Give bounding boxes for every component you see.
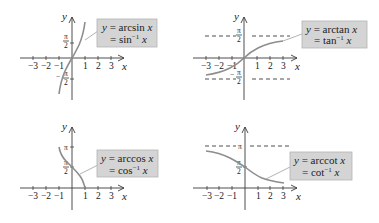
y-axis-label: y <box>61 10 67 22</box>
tick-label-m2: −2 <box>214 191 224 201</box>
panel-arccos: −3 −2 −1 1 2 3 x y π π 2 y = arccos x = … <box>20 120 158 210</box>
tick-label-2: 2 <box>96 191 101 201</box>
x-axis-label: x <box>121 60 127 72</box>
label-line-2: = tan−1 x <box>314 34 352 46</box>
tick-label-m1: −1 <box>227 191 237 201</box>
tick-label-1: 1 <box>83 191 88 201</box>
y-axis-label: y <box>234 120 240 132</box>
leader-line <box>283 34 302 41</box>
label-line-1: y = arccot x <box>293 154 345 166</box>
tick-label-m2: −2 <box>41 61 51 71</box>
tick-label-2: 2 <box>268 191 273 201</box>
svg-text:−: − <box>56 72 60 81</box>
panel-arccot: −3 −2 −1 1 2 3 x y π π 2 y = arccot x = … <box>193 120 352 210</box>
panel-arcsin: −3 −2 −1 1 2 3 x y π 2 − π 2 y = arcsin … <box>20 10 157 100</box>
x-axis-label: x <box>294 60 300 72</box>
tick-label-3: 3 <box>281 191 286 201</box>
y-label-pi: π <box>64 143 68 152</box>
svg-text:2: 2 <box>237 35 241 44</box>
tick-label-3: 3 <box>109 61 114 71</box>
svg-text:2: 2 <box>237 167 241 176</box>
label-line-2: = sin−1 x <box>110 33 147 45</box>
y-label-pi: π <box>238 142 242 151</box>
svg-text:π: π <box>237 68 241 77</box>
y-axis-label: y <box>61 120 67 132</box>
inverse-trig-figure: −3 −2 −1 1 2 3 x y π 2 − π 2 y = arcsin … <box>0 0 379 223</box>
tick-label-3: 3 <box>281 61 286 71</box>
svg-text:π: π <box>237 26 241 35</box>
leader-line <box>266 167 290 179</box>
svg-text:2: 2 <box>64 78 68 87</box>
label-line-1: y = arccos x <box>100 152 153 164</box>
leader-line <box>85 31 98 40</box>
leader-line <box>80 165 98 174</box>
svg-text:2: 2 <box>64 41 68 50</box>
tick-label-1: 1 <box>255 61 260 71</box>
tick-label-m3: −3 <box>28 191 38 201</box>
tick-label-2: 2 <box>268 61 273 71</box>
tick-label-m3: −3 <box>201 61 211 71</box>
tick-label-2: 2 <box>96 61 101 71</box>
label-line-2: = cot−1 x <box>302 166 340 178</box>
tick-label-m1: −1 <box>54 191 64 201</box>
tick-label-1: 1 <box>83 61 88 71</box>
svg-text:2: 2 <box>64 167 68 176</box>
panel-arctan: −3 −2 −1 1 2 3 x y π 2 − π 2 y = arctan … <box>193 10 367 100</box>
y-label-pi-half: π 2 <box>63 32 69 50</box>
y-axis-label: y <box>233 10 239 22</box>
tick-label-m1: −1 <box>54 61 64 71</box>
svg-text:−: − <box>230 70 234 79</box>
tick-label-3: 3 <box>109 191 114 201</box>
x-axis-label: x <box>295 190 301 202</box>
y-label-pi-half: π 2 <box>236 26 242 44</box>
svg-text:π: π <box>64 32 68 41</box>
tick-label-m2: −2 <box>214 61 224 71</box>
tick-label-m3: −3 <box>202 191 212 201</box>
tick-label-m2: −2 <box>41 191 51 201</box>
x-axis-label: x <box>121 190 127 202</box>
label-line-2: = cos−1 x <box>109 164 148 176</box>
tick-label-1: 1 <box>256 191 261 201</box>
tick-label-m3: −3 <box>28 61 38 71</box>
y-label-pi-half: π 2 <box>236 158 242 176</box>
svg-text:2: 2 <box>237 77 241 86</box>
label-line-1: y = arcsin x <box>101 21 153 33</box>
